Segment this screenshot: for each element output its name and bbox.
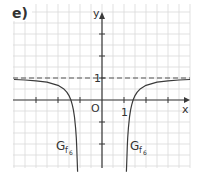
curve-label-main: G <box>130 139 139 153</box>
curve-label-sub: f <box>139 146 142 155</box>
y-unit-label: 1 <box>94 72 101 85</box>
x-unit-label: 1 <box>121 106 128 119</box>
curve-label-subsub: 6 <box>69 149 73 156</box>
curve-label-subsub: 6 <box>143 149 147 156</box>
x-axis-label: x <box>182 103 189 116</box>
curve-label-main: G <box>56 139 65 153</box>
curve-label-sub: f <box>65 146 68 155</box>
y-axis-label: y <box>93 7 100 20</box>
function-graph: e) y x O 1 1 G f 6 G f 6 <box>0 0 198 172</box>
origin-label: O <box>91 102 100 115</box>
panel-label: e) <box>12 5 28 21</box>
